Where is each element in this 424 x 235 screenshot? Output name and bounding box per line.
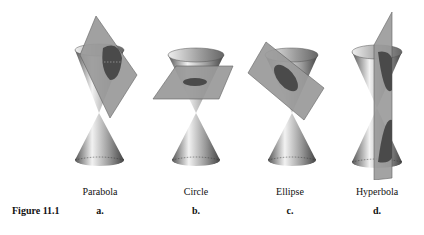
figure-caption: Figure 11.1 bbox=[12, 205, 60, 216]
panel-d-name: Hyperbola bbox=[356, 186, 398, 197]
panel-a-name: Parabola bbox=[83, 186, 118, 197]
panel-c-letter: c. bbox=[287, 205, 294, 216]
panel-c-name: Ellipse bbox=[276, 186, 304, 197]
panel-b-name: Circle bbox=[184, 186, 208, 197]
ellipse-diagram bbox=[248, 42, 324, 166]
conic-sections-illustration bbox=[0, 0, 424, 180]
panel-a-letter: a. bbox=[96, 205, 104, 216]
panel-b-letter: b. bbox=[192, 205, 200, 216]
circle-diagram bbox=[153, 48, 233, 166]
parabola-diagram bbox=[75, 16, 137, 166]
panel-d-letter: d. bbox=[373, 205, 381, 216]
hyperbola-diagram bbox=[352, 12, 402, 180]
